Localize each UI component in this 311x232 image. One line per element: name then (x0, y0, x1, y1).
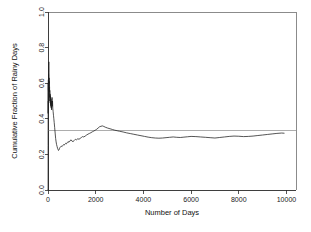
y-tick-label: 1.0 (38, 7, 45, 17)
data-series-line (48, 62, 284, 190)
line-chart: 02000400060008000100000.00.20.40.60.81.0… (0, 0, 311, 232)
x-tick-label: 4000 (136, 196, 152, 203)
y-tick-label: 0.8 (38, 43, 45, 53)
y-axis-title: Cumulative Fraction of Rainy Days (10, 43, 19, 159)
x-tick-label: 10000 (277, 196, 297, 203)
y-tick-label: 0.2 (38, 149, 45, 159)
x-tick-label: 6000 (183, 196, 199, 203)
x-tick-label: 8000 (231, 196, 247, 203)
y-tick-label: 0.4 (38, 114, 45, 124)
chart-figure: 02000400060008000100000.00.20.40.60.81.0… (0, 0, 311, 232)
x-axis-title: Number of Days (145, 208, 199, 217)
y-tick-label: 0.6 (38, 78, 45, 88)
x-tick-label: 2000 (88, 196, 104, 203)
y-tick-label: 0.0 (38, 185, 45, 195)
x-tick-label: 0 (46, 196, 50, 203)
plot-frame (48, 12, 296, 190)
